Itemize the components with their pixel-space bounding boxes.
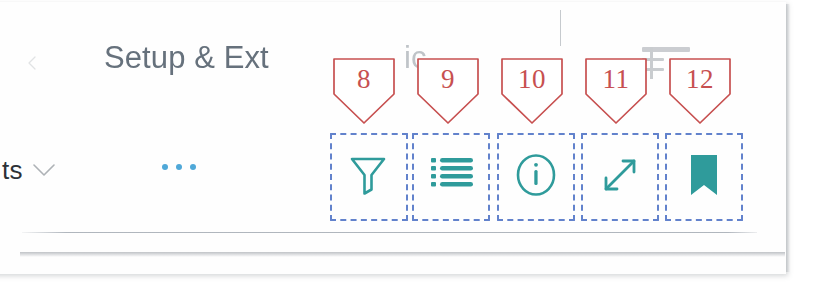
toggle-stem: [650, 47, 653, 79]
callout-number: 8: [333, 64, 395, 94]
ellipsis-dot: [190, 164, 196, 170]
ellipsis-dot: [162, 164, 168, 170]
chevron-left-icon[interactable]: [24, 55, 40, 71]
highlight-box-bookmark: [665, 133, 743, 221]
highlight-box-list: [412, 133, 490, 221]
callout-badge-8: 8: [333, 58, 395, 124]
callout-number: 11: [585, 64, 647, 94]
callout-number: 10: [501, 64, 563, 94]
ellipsis-dot: [176, 164, 182, 170]
callout-number: 9: [417, 64, 479, 94]
callout-badge-10: 10: [501, 58, 563, 124]
callout-number: 12: [669, 64, 731, 94]
highlight-box-expand: [581, 133, 659, 221]
command-bar-divider: [22, 232, 757, 233]
callout-badge-12: 12: [669, 58, 731, 124]
ghost-separator-tick: [560, 10, 561, 46]
callout-badge-9: 9: [417, 58, 479, 124]
ellipsis-horizontal-icon[interactable]: [162, 164, 196, 170]
highlight-box-info: [497, 133, 575, 221]
filter-dropdown[interactable]: ts: [2, 155, 56, 185]
filter-dropdown-label: ts: [2, 155, 23, 185]
highlight-box-filter: [330, 133, 408, 221]
chevron-down-icon[interactable]: [32, 163, 56, 177]
page-title: Setup & Ext: [104, 38, 269, 78]
callout-badge-11: 11: [585, 58, 647, 124]
